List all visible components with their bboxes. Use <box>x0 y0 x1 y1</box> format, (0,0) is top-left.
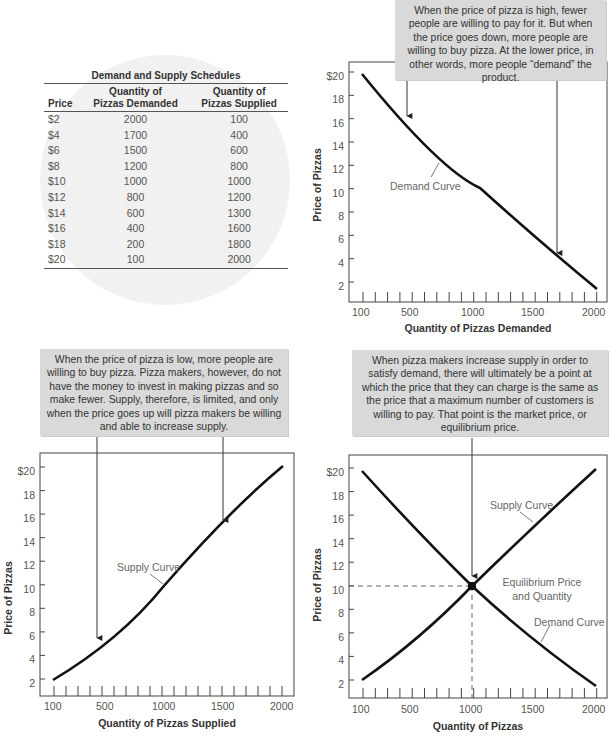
market-demand-curve-label: Demand Curve <box>534 616 605 628</box>
supply-xlabel: Quantity of Pizzas Supplied <box>40 717 294 729</box>
market-xticks: 100 500 1000 1500 2000 <box>349 703 607 717</box>
x-ticks <box>363 292 597 302</box>
equilibrium-callout: When pizza makers increase supply in ord… <box>352 350 608 436</box>
supply-callout: When the price of pizza is low, more peo… <box>40 349 288 436</box>
market-xlabel: Quantity of Pizzas <box>349 720 607 732</box>
demand-callout: When the price of pizza is high, fewer p… <box>395 0 606 80</box>
market-chart <box>349 438 607 698</box>
demand-xticks: 100 500 1000 1500 2000 <box>349 306 607 320</box>
supply-xticks: 100 500 1000 1500 2000 <box>40 700 294 714</box>
equilibrium-label: Equilibrium Priceand Quantity <box>492 575 592 603</box>
demand-chart <box>349 62 607 302</box>
market-ylabel: Price of Pizzas <box>311 548 323 622</box>
demand-curve-label: Demand Curve <box>390 180 461 192</box>
supply-ylabel: Price of Pizzas <box>2 561 14 635</box>
supply-curve-line <box>53 466 283 680</box>
supply-curve-label: Supply Curve <box>117 561 180 573</box>
market-supply-curve-label: Supply Curve <box>490 499 553 511</box>
demand-ylabel: Price of Pizzas <box>311 148 323 222</box>
equilibrium-point <box>468 582 476 590</box>
demand-xlabel: Quantity of Pizzas Demanded <box>349 322 607 334</box>
